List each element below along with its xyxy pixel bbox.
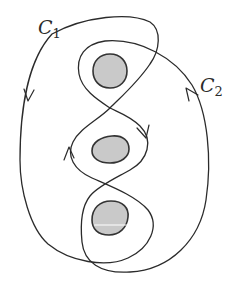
label-c1-sub: 1 xyxy=(53,26,61,41)
label-c2-sub: 2 xyxy=(215,84,223,99)
diagram-canvas xyxy=(0,0,238,288)
label-c1: C1 xyxy=(38,18,61,40)
top-hole xyxy=(93,54,127,88)
label-c2-main: C xyxy=(200,74,215,96)
label-c2: C2 xyxy=(200,76,223,98)
curve-c1 xyxy=(20,17,158,263)
middle-hole xyxy=(92,136,129,163)
bottom-hole xyxy=(92,201,128,235)
label-c1-main: C xyxy=(38,16,53,38)
c1-arrow-middle-up-icon xyxy=(64,147,74,160)
c2-arrow-right-up-icon xyxy=(186,88,198,101)
